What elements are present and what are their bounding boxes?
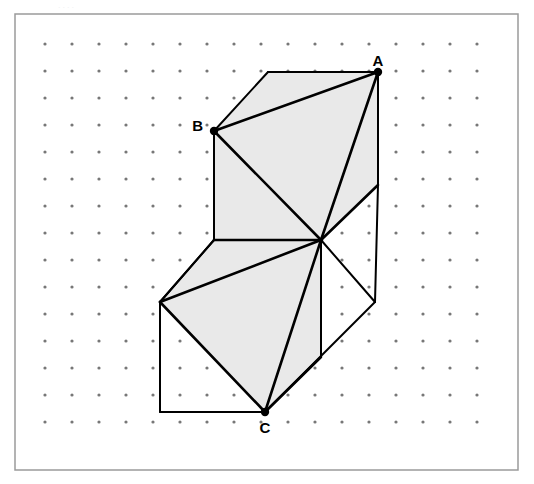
grid-dot	[475, 69, 478, 72]
grid-dot	[97, 231, 100, 234]
grid-dot	[43, 339, 46, 342]
grid-dot	[394, 339, 397, 342]
grid-dot	[70, 258, 73, 261]
grid-dot	[313, 420, 316, 423]
grid-dot	[340, 312, 343, 315]
grid-dot	[124, 69, 127, 72]
grid-dot	[340, 231, 343, 234]
grid-dot	[43, 42, 46, 45]
grid-dot	[124, 150, 127, 153]
grid-dot	[205, 150, 208, 153]
grid-dot	[43, 96, 46, 99]
grid-dot	[205, 393, 208, 396]
grid-dot	[367, 42, 370, 45]
grid-dot	[367, 366, 370, 369]
grid-dot	[178, 177, 181, 180]
grid-dot	[232, 420, 235, 423]
grid-dot	[394, 231, 397, 234]
grid-dot	[421, 150, 424, 153]
grid-dot	[43, 123, 46, 126]
grid-dot	[394, 393, 397, 396]
grid-dot	[70, 339, 73, 342]
grid-dot	[70, 42, 73, 45]
grid-dot	[340, 393, 343, 396]
grid-dot	[475, 258, 478, 261]
grid-dot	[151, 96, 154, 99]
grid-dot	[205, 177, 208, 180]
grid-dot	[43, 204, 46, 207]
grid-dot	[367, 312, 370, 315]
grid-dot	[232, 42, 235, 45]
grid-dot	[448, 69, 451, 72]
grid-dot	[421, 285, 424, 288]
grid-dot	[43, 258, 46, 261]
grid-dot	[394, 42, 397, 45]
grid-dot	[394, 366, 397, 369]
grid-dot	[340, 258, 343, 261]
grid-dot	[259, 42, 262, 45]
grid-dot	[205, 69, 208, 72]
grid-dot	[367, 339, 370, 342]
grid-dot	[124, 420, 127, 423]
grid-dot	[340, 366, 343, 369]
grid-dot	[475, 312, 478, 315]
vertex-marker-c	[261, 408, 269, 416]
grid-dot	[448, 366, 451, 369]
grid-dot	[178, 366, 181, 369]
grid-dot	[178, 96, 181, 99]
grid-dot	[43, 285, 46, 288]
grid-dot	[394, 123, 397, 126]
grid-dot	[178, 123, 181, 126]
grid-dot	[421, 204, 424, 207]
grid-dot	[421, 393, 424, 396]
grid-dot	[97, 204, 100, 207]
grid-dot	[394, 177, 397, 180]
grid-dot	[475, 393, 478, 396]
grid-dot	[97, 42, 100, 45]
grid-dot	[475, 231, 478, 234]
grid-dot	[97, 339, 100, 342]
grid-dot	[151, 42, 154, 45]
grid-dot	[43, 366, 46, 369]
grid-dot	[448, 231, 451, 234]
grid-dot	[97, 366, 100, 369]
grid-dot	[421, 42, 424, 45]
grid-dot	[421, 258, 424, 261]
grid-dot	[178, 231, 181, 234]
grid-dot	[70, 69, 73, 72]
grid-dot	[97, 96, 100, 99]
grid-dot	[178, 393, 181, 396]
grid-dot	[151, 177, 154, 180]
grid-dot	[475, 285, 478, 288]
grid-dot	[448, 258, 451, 261]
grid-dot	[43, 150, 46, 153]
figure-page: .... A B C	[0, 0, 534, 484]
grid-dot	[70, 96, 73, 99]
grid-dot	[367, 204, 370, 207]
grid-dot	[178, 339, 181, 342]
grid-dot	[43, 177, 46, 180]
grid-dot	[232, 393, 235, 396]
grid-dot	[151, 69, 154, 72]
grid-dot	[97, 258, 100, 261]
grid-dot	[151, 123, 154, 126]
grid-dot	[151, 285, 154, 288]
grid-dot	[124, 366, 127, 369]
grid-dot	[70, 123, 73, 126]
grid-dot	[448, 96, 451, 99]
grid-dot	[124, 177, 127, 180]
grid-dot	[151, 312, 154, 315]
grid-dot	[394, 258, 397, 261]
grid-dot	[205, 420, 208, 423]
grid-dot	[394, 204, 397, 207]
grid-dot	[340, 420, 343, 423]
grid-dot	[43, 420, 46, 423]
grid-dot	[367, 258, 370, 261]
grid-dot	[421, 231, 424, 234]
grid-dot	[394, 420, 397, 423]
grid-dot	[70, 150, 73, 153]
grid-dot	[178, 150, 181, 153]
grid-dot	[394, 69, 397, 72]
grid-dot	[70, 285, 73, 288]
grid-dot	[475, 150, 478, 153]
